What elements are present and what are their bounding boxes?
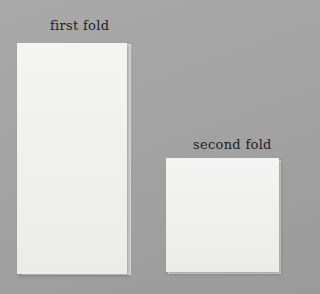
second-fold-paper <box>166 158 279 272</box>
first-fold-label: first fold <box>50 18 109 33</box>
second-fold-label: second fold <box>193 137 272 152</box>
first-fold-paper <box>17 43 127 274</box>
